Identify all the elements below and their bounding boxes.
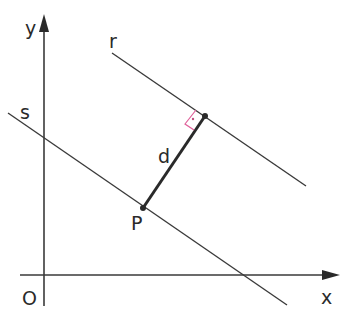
line-s-label: s: [20, 101, 30, 123]
line-s: [8, 113, 287, 305]
right-angle-marker-icon: [185, 110, 196, 130]
y-axis-label: y: [25, 17, 36, 39]
foot-point-dot: [202, 113, 208, 119]
distance-label: d: [158, 145, 170, 167]
distance-segment-d: [143, 116, 205, 208]
line-r: [112, 53, 306, 186]
right-angle-dot-icon: [192, 118, 194, 120]
diagram-svg: y x O r s d P: [0, 0, 353, 319]
point-p-dot: [140, 205, 146, 211]
origin-label: O: [22, 287, 37, 309]
line-r-label: r: [109, 30, 117, 52]
x-axis-arrow-icon: [322, 270, 340, 280]
diagram-canvas: y x O r s d P: [0, 0, 353, 319]
y-axis-arrow-icon: [39, 14, 49, 32]
x-axis-label: x: [321, 286, 332, 308]
point-p-label: P: [131, 212, 142, 234]
